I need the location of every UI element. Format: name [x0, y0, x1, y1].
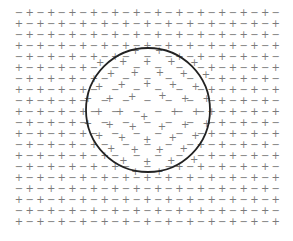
negative-charge: − [261, 106, 269, 117]
positive-charge: + [111, 29, 119, 40]
positive-charge: + [250, 194, 258, 205]
negative-charge: − [165, 205, 173, 216]
negative-charge: − [186, 183, 194, 194]
negative-charge: − [36, 95, 44, 106]
negative-charge: − [197, 18, 205, 29]
negative-charge: − [207, 29, 215, 40]
negative-charge: − [165, 29, 173, 40]
negative-charge: − [207, 51, 215, 62]
negative-charge: − [79, 183, 87, 194]
positive-charge: + [186, 40, 194, 51]
negative-charge: − [154, 216, 162, 227]
negative-charge: − [68, 150, 76, 161]
negative-charge: − [15, 139, 23, 150]
positive-charge: + [15, 150, 23, 161]
negative-charge: − [240, 172, 248, 183]
negative-charge: − [261, 172, 269, 183]
negative-charge: − [154, 106, 162, 117]
negative-charge: − [47, 150, 55, 161]
negative-charge: − [15, 183, 23, 194]
negative-charge: − [122, 139, 130, 150]
negative-charge: − [229, 139, 237, 150]
positive-charge: + [15, 106, 23, 117]
negative-charge: − [133, 128, 141, 139]
positive-charge: + [165, 40, 173, 51]
positive-charge: + [58, 62, 66, 73]
positive-charge: + [165, 194, 173, 205]
positive-charge: + [207, 106, 215, 117]
positive-charge: + [261, 117, 269, 128]
positive-charge: + [47, 139, 55, 150]
negative-charge: − [26, 40, 34, 51]
negative-charge: − [143, 95, 151, 106]
positive-charge: + [26, 95, 34, 106]
negative-charge: − [111, 40, 119, 51]
positive-charge: + [229, 40, 237, 51]
negative-charge: − [90, 194, 98, 205]
negative-charge: − [261, 62, 269, 73]
negative-charge: − [261, 128, 269, 139]
negative-charge: − [68, 18, 76, 29]
negative-charge: − [111, 194, 119, 205]
negative-charge: − [240, 40, 248, 51]
negative-charge: − [229, 51, 237, 62]
positive-charge: + [122, 216, 130, 227]
positive-charge: + [36, 194, 44, 205]
positive-charge: + [165, 18, 173, 29]
negative-charge: − [15, 29, 23, 40]
positive-charge: + [58, 18, 66, 29]
negative-charge: − [229, 7, 237, 18]
positive-charge: + [133, 205, 141, 216]
negative-charge: − [240, 106, 248, 117]
negative-charge: − [36, 73, 44, 84]
positive-charge: + [240, 51, 248, 62]
positive-charge: + [197, 205, 205, 216]
negative-charge: − [186, 161, 194, 172]
negative-charge: − [122, 29, 130, 40]
positive-charge: + [261, 7, 269, 18]
positive-charge: + [47, 73, 55, 84]
positive-charge: + [261, 95, 269, 106]
positive-charge: + [133, 29, 141, 40]
negative-charge: − [26, 216, 34, 227]
positive-charge: + [207, 172, 215, 183]
negative-charge: − [197, 106, 205, 117]
negative-charge: − [90, 216, 98, 227]
negative-charge: − [68, 128, 76, 139]
positive-charge: + [186, 216, 194, 227]
negative-charge: − [90, 150, 98, 161]
positive-charge: + [250, 84, 258, 95]
negative-charge: − [197, 216, 205, 227]
negative-charge: − [143, 117, 151, 128]
positive-charge: + [240, 161, 248, 172]
positive-charge: + [36, 84, 44, 95]
negative-charge: − [272, 139, 280, 150]
negative-charge: − [240, 18, 248, 29]
negative-charge: − [36, 7, 44, 18]
negative-charge: − [165, 183, 173, 194]
negative-charge: − [218, 128, 226, 139]
positive-charge: + [122, 172, 130, 183]
positive-charge: + [26, 73, 34, 84]
positive-charge: + [94, 106, 102, 117]
negative-charge: − [15, 73, 23, 84]
positive-charge: + [26, 183, 34, 194]
negative-charge: − [229, 183, 237, 194]
positive-charge: + [240, 117, 248, 128]
positive-charge: + [111, 7, 119, 18]
negative-charge: − [111, 172, 119, 183]
negative-charge: − [154, 150, 162, 161]
negative-charge: − [58, 73, 66, 84]
negative-charge: − [26, 84, 34, 95]
negative-charge: − [90, 172, 98, 183]
positive-charge: + [15, 40, 23, 51]
positive-charge: + [218, 117, 226, 128]
positive-charge: + [250, 106, 258, 117]
negative-charge: − [68, 62, 76, 73]
positive-charge: + [197, 161, 205, 172]
positive-charge: + [272, 62, 280, 73]
negative-charge: − [133, 150, 141, 161]
negative-charge: − [15, 117, 23, 128]
positive-charge: + [272, 40, 280, 51]
negative-charge: − [218, 40, 226, 51]
